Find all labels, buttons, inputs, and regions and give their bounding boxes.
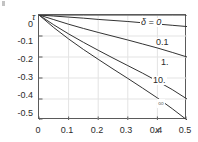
x-tick-label-0: 0 [25,126,51,135]
curve-label-1: 1. [160,58,170,67]
plot-canvas [39,15,187,120]
y-tick-label-3: -0.3 [3,73,33,82]
data-curves [39,15,187,120]
axis-ticks [39,15,187,120]
y-tick-label-2: -0.2 [3,55,33,64]
curve-label-infinity: ∞ [157,99,165,108]
curve-label-delta-zero: δ = 0 [140,18,162,27]
figure-container: τ x 0 -0.1 -0.2 -0.3 -0.4 -0.5 0 0.1 0.2… [0,0,198,142]
corner-artifact-speck [2,1,5,6]
gridlines [39,15,187,120]
curve-series-4 [39,15,187,120]
y-tick-label-4: -0.4 [3,91,33,100]
x-tick-label-1: 0.1 [54,126,80,135]
x-tick-label-4: 0.4 [143,126,169,135]
x-tick-label-2: 0.2 [84,126,110,135]
curve-label-10: 10. [152,76,167,85]
y-tick-label-0: 0 [3,20,33,29]
curve-series-1 [39,15,187,27]
x-tick-label-5: 0.5 [172,126,198,135]
curve-label-0.1: 0.1 [155,38,170,47]
y-tick-label-5: -0.5 [3,109,33,118]
y-tick-label-1: -0.1 [3,37,33,46]
x-tick-label-3: 0.3 [113,126,139,135]
